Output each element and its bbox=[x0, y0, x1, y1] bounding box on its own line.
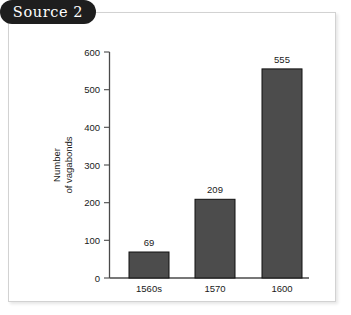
vagabonds-bar-chart: 600 500 400 300 200 100 0 Number of vaga… bbox=[13, 17, 341, 307]
card-inner: 600 500 400 300 200 100 0 Number of vaga… bbox=[13, 17, 331, 297]
y-axis-title-line1: Number bbox=[51, 148, 62, 182]
bar-1600 bbox=[262, 69, 302, 278]
source-badge: Source 2 bbox=[0, 0, 96, 24]
y-axis-ticks bbox=[104, 52, 110, 278]
source-card: 600 500 400 300 200 100 0 Number of vaga… bbox=[8, 12, 336, 302]
bar-1570 bbox=[195, 199, 235, 278]
x-tick-label-1570: 1570 bbox=[204, 283, 225, 294]
y-axis-title: Number of vagabonds bbox=[51, 136, 74, 193]
y-tick-label-200: 200 bbox=[84, 197, 100, 208]
page-root: 600 500 400 300 200 100 0 Number of vaga… bbox=[0, 0, 351, 315]
bar-value-label-1600: 555 bbox=[274, 54, 290, 65]
y-tick-label-0: 0 bbox=[95, 273, 100, 284]
y-axis-title-line2: of vagabonds bbox=[63, 136, 74, 193]
y-tick-label-100: 100 bbox=[84, 235, 100, 246]
y-tick-label-500: 500 bbox=[84, 84, 100, 95]
y-tick-label-300: 300 bbox=[84, 160, 100, 171]
x-tick-label-1560s: 1560s bbox=[136, 283, 162, 294]
y-tick-label-400: 400 bbox=[84, 122, 100, 133]
source-badge-label: Source 2 bbox=[13, 4, 83, 20]
bar-1560s bbox=[129, 252, 169, 278]
x-tick-label-1600: 1600 bbox=[271, 283, 292, 294]
bar-value-label-1560s: 69 bbox=[144, 237, 155, 248]
y-tick-label-600: 600 bbox=[84, 47, 100, 58]
bar-value-label-1570: 209 bbox=[207, 184, 223, 195]
